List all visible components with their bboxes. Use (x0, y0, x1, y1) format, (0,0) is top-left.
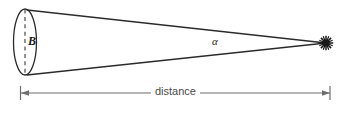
baseline-label: B (28, 35, 36, 47)
right-arrowhead-icon (322, 90, 330, 96)
left-arrowhead-icon (21, 90, 29, 96)
cone-top-edge (27, 10, 326, 43)
angular-size-diagram: B α distance (0, 0, 342, 114)
star-burst-icon (319, 36, 333, 50)
angle-label: α (212, 36, 218, 47)
distance-label: distance (151, 86, 200, 97)
cone-bottom-edge (27, 43, 326, 75)
